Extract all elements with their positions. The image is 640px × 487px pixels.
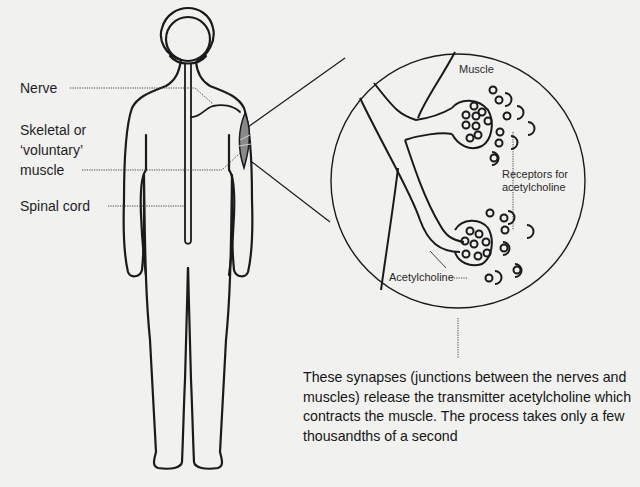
caption: These synapses (junctions between the ne… [303,368,640,446]
nerve [191,105,240,117]
label-receptors-2: acetylcholine [502,181,566,194]
label-spinal-cord: Spinal cord [20,198,90,215]
synapse-top [452,87,535,166]
synapse-bottom [455,210,534,285]
label-skeletal-muscle-2: ‘voluntary’ [20,142,83,159]
label-nerve: Nerve [20,80,57,97]
nerve-fibres [360,52,464,290]
label-receptors-1: Receptors for [502,168,568,181]
spinal-cord [185,64,191,244]
label-muscle: Muscle [459,63,494,76]
head-inner [166,17,210,61]
label-skeletal-muscle-1: Skeletal or [20,122,86,139]
label-skeletal-muscle-3: muscle [20,162,64,179]
label-acetylcholine: Acetylcholine [389,271,454,284]
muscle-icon [239,113,251,168]
